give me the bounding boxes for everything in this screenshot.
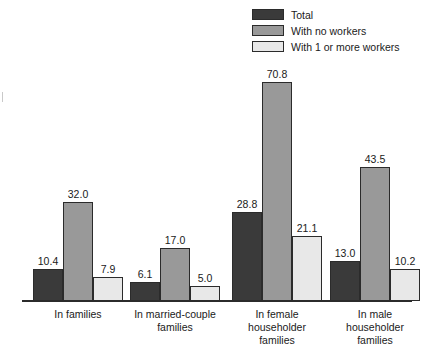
bar bbox=[330, 261, 360, 301]
grouped-bar-chart: TotalWith no workersWith 1 or more worke… bbox=[0, 0, 435, 364]
bar-group: 6.117.05.0 bbox=[130, 71, 220, 301]
bar-group: 13.043.510.2 bbox=[330, 71, 420, 301]
bar-value-label: 21.1 bbox=[286, 223, 328, 234]
bar bbox=[93, 277, 123, 301]
bar bbox=[130, 282, 160, 301]
bar-value-label: 17.0 bbox=[154, 235, 196, 246]
bar bbox=[63, 202, 93, 301]
bar-value-label: 70.8 bbox=[256, 69, 298, 80]
bar-value-label: 5.0 bbox=[184, 273, 226, 284]
bar bbox=[33, 269, 63, 301]
bar bbox=[292, 236, 322, 301]
category-label: In male householder families bbox=[308, 308, 435, 347]
bar bbox=[262, 82, 292, 301]
bar-value-label: 10.2 bbox=[384, 256, 426, 267]
bar-group: 28.870.821.1 bbox=[232, 71, 322, 301]
bar-group-bars: 28.870.821.1 bbox=[232, 71, 322, 301]
bar bbox=[232, 212, 262, 301]
bar-group-bars: 13.043.510.2 bbox=[330, 71, 420, 301]
bar bbox=[390, 269, 420, 301]
bar-value-label: 7.9 bbox=[87, 264, 129, 275]
bar-value-label: 43.5 bbox=[354, 154, 396, 165]
bar-group-bars: 10.432.07.9 bbox=[33, 71, 123, 301]
bar bbox=[360, 167, 390, 301]
bar-group-bars: 6.117.05.0 bbox=[130, 71, 220, 301]
bar bbox=[190, 286, 220, 301]
y-axis-stub bbox=[2, 92, 3, 102]
bar-value-label: 32.0 bbox=[57, 189, 99, 200]
bar-group: 10.432.07.9 bbox=[33, 71, 123, 301]
plot-area: 10.432.07.96.117.05.028.870.821.113.043.… bbox=[0, 0, 435, 364]
